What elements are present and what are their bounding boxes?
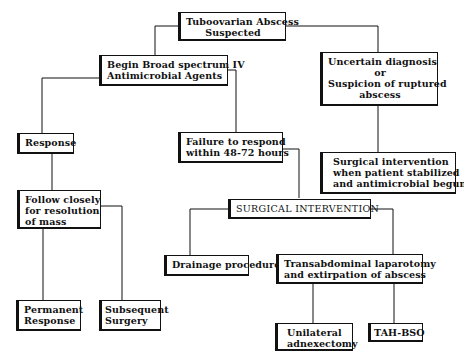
node-text: Unilateral bbox=[287, 327, 347, 338]
node-drainage-procedure: Drainage procedure bbox=[164, 255, 249, 276]
node-text: Suspected bbox=[186, 27, 280, 38]
node-permanent-response: Permanent Response bbox=[16, 300, 81, 331]
edge-follow-subsequent bbox=[100, 206, 122, 300]
node-text: of mass bbox=[25, 216, 95, 227]
node-text: Antimicrobial Agents bbox=[107, 70, 222, 81]
node-text: for resolution bbox=[25, 205, 95, 216]
node-text: Begin Broad spectrum IV bbox=[107, 59, 222, 70]
node-text: Permanent bbox=[24, 304, 75, 315]
node-begin-antimicrobial: Begin Broad spectrum IV Antimicrobial Ag… bbox=[99, 55, 228, 86]
node-failure-to-respond: Failure to respond within 48-72 hours bbox=[178, 132, 283, 163]
node-text: Response bbox=[25, 137, 68, 148]
edge-start-uncertain bbox=[285, 26, 378, 53]
node-subsequent-surgery: Subsequent Surgery bbox=[99, 300, 161, 331]
node-text: and extirpation of abscess bbox=[284, 269, 417, 280]
node-text: Response bbox=[24, 315, 75, 326]
node-text: Subsequent bbox=[105, 304, 155, 315]
node-text: Drainage procedure bbox=[172, 259, 243, 270]
node-tah-bso: TAH-BSO bbox=[368, 323, 423, 342]
node-text: adnexectomy bbox=[287, 338, 347, 349]
node-text: Transabdominal laparotomy bbox=[284, 258, 417, 269]
edge-start-antimicrobial bbox=[155, 26, 178, 55]
node-text: SURGICAL INTERVENTION bbox=[236, 203, 365, 214]
edge-surgical-drainage bbox=[190, 209, 229, 256]
node-text: within 48-72 hours bbox=[186, 147, 277, 158]
node-text: Surgical intervention bbox=[333, 156, 450, 167]
node-surgical-intervention: SURGICAL INTERVENTION bbox=[228, 199, 371, 219]
node-text: and antimicrobial begun bbox=[333, 178, 450, 189]
node-tuboovarian-abscess-suspected: Tuboovarian Abscess Suspected bbox=[178, 12, 286, 41]
node-text: Failure to respond bbox=[186, 136, 277, 147]
node-text: Suspicion of ruptured bbox=[328, 78, 432, 89]
node-text: Follow closely bbox=[25, 194, 95, 205]
node-uncertain-diagnosis: Uncertain diagnosis or Suspicion of rupt… bbox=[320, 52, 438, 106]
node-text: Uncertain diagnosis bbox=[328, 56, 432, 67]
node-text: when patient stabilized bbox=[333, 167, 450, 178]
edge-antimicrobial-failure bbox=[227, 70, 236, 133]
node-text: Surgery bbox=[105, 315, 155, 326]
edge-surgical-transabdominal bbox=[370, 209, 393, 254]
node-response: Response bbox=[17, 133, 74, 154]
edge-antimicrobial-response bbox=[42, 78, 100, 133]
node-text: abscess bbox=[328, 89, 432, 100]
node-follow-closely: Follow closely for resolution of mass bbox=[17, 190, 101, 229]
node-unilateral-adnexectomy: Unilateral adnexectomy bbox=[275, 323, 353, 351]
node-text: Tuboovarian Abscess bbox=[186, 16, 280, 27]
node-text: or bbox=[328, 67, 432, 78]
node-text: TAH-BSO bbox=[374, 327, 419, 338]
node-surgical-when-stabilized: Surgical intervention when patient stabi… bbox=[320, 152, 456, 194]
node-transabdominal-laparotomy: Transabdominal laparotomy and extirpatio… bbox=[276, 254, 423, 284]
